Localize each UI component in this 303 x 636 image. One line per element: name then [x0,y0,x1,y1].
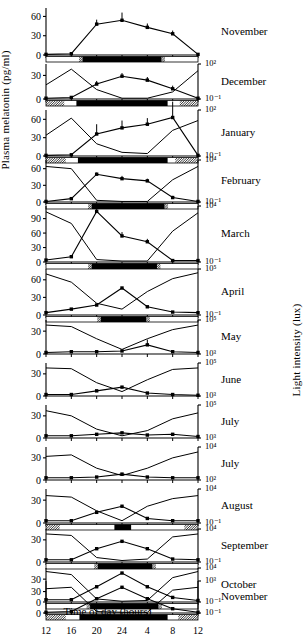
data-point-marker [171,519,174,522]
month-label-april-5: April [221,285,244,297]
data-point-marker [196,311,199,314]
data-point-marker [44,351,47,354]
data-point-marker [146,433,149,436]
data-point-marker [146,547,149,550]
data-point-marker [70,519,73,522]
right-tick-label: 10⁻¹ [205,93,221,103]
data-point-marker [196,558,199,561]
data-point-marker [70,558,73,561]
x-tick-label: 4 [138,625,156,636]
dark-period-bar [78,158,168,164]
light-intensity-curve [46,534,198,561]
data-point-marker [146,123,149,126]
right-tick-label: 10⁴ [205,154,216,164]
right-tick-label: 10⁵ [205,399,216,409]
y-tick-label: 30 [31,410,41,421]
data-point-marker [120,177,123,180]
melatonin-curve [46,541,198,559]
data-point-marker [146,585,149,588]
month-label-may-6: May [221,330,241,342]
y-tick-label: 0 [36,391,41,402]
data-point-marker [44,97,47,100]
melatonin-curve [46,76,198,98]
right-tick-label: 10⁴ [205,562,216,572]
month-label-november-13: November [221,590,267,602]
y-tick-label: 60 [31,274,41,285]
data-point-marker [196,394,199,397]
data-point-marker [146,475,149,478]
data-point-marker [95,389,98,392]
data-point-marker [70,476,73,479]
dark-period-bar [98,564,153,570]
light-intensity-curve [46,325,198,349]
data-point-marker [44,311,47,314]
right-tick-label: 10⁻¹ [205,596,221,606]
month-label-february-3: February [221,174,261,186]
data-point-marker [44,154,47,157]
right-tick-label: 10⁴ [205,483,216,493]
melatonin-curve [46,20,198,54]
panel-3-february: 03060 [31,160,201,209]
data-point-marker [171,393,174,396]
data-point-marker [120,472,123,475]
y-tick-label: 0 [36,50,41,61]
data-point-marker [70,393,73,396]
data-point-marker [44,200,47,203]
data-point-marker [70,197,73,200]
panel-9-july: 030 [31,447,201,486]
y-tick-label: 0 [36,257,41,268]
data-point-marker [196,200,199,203]
data-point-marker [120,385,123,388]
y-tick-label: 30 [31,292,41,303]
data-point-marker [95,82,98,85]
data-point-marker [171,259,174,262]
y-tick-label: 30 [31,30,41,41]
panel-10-august: 030 [31,489,208,530]
data-point-marker [120,505,123,508]
data-point-marker [95,303,98,306]
right-tick-label: 10² [205,58,216,68]
right-tick-label: 10⁴ [205,200,216,210]
data-point-marker [120,431,123,434]
data-point-marker [44,434,47,437]
data-point-marker [120,540,123,543]
month-label-july-8: July [221,415,239,427]
y-tick-label: 60 [31,11,41,22]
panel-4-march: 0306090 [31,206,201,269]
right-tick-label: 10⁵ [205,314,216,324]
data-point-marker [95,173,98,176]
month-label-october-12: October [221,578,256,590]
data-point-marker [70,350,73,353]
data-point-marker [70,255,73,258]
y-tick-label: 90 [31,213,41,224]
light-intensity-curve [46,273,198,309]
y-tick-label: 30 [31,180,41,191]
right-tick-label: 10³ [205,575,216,585]
data-point-marker [196,519,199,522]
y-tick-label: 0 [36,94,41,105]
data-point-marker [70,307,73,310]
data-point-marker [196,53,199,56]
month-label-august-10: August [221,499,253,511]
light-intensity-curve [46,496,198,521]
month-label-july-9: July [221,457,239,469]
data-point-marker [196,435,199,438]
data-point-marker [70,96,73,99]
data-point-marker [171,476,174,479]
data-point-marker [146,240,149,243]
x-tick-label: 12 [37,625,55,636]
data-point-marker [120,75,123,78]
y-tick-label: 30 [31,452,41,463]
y-tick-label: 30 [31,534,41,545]
light-intensity-curve [46,452,198,476]
y-tick-label: 60 [31,114,41,125]
data-point-marker [70,434,73,437]
right-tick-label: 10² [205,104,216,114]
data-point-marker [171,196,174,199]
data-point-marker [95,511,98,514]
data-point-marker [196,154,199,157]
data-point-marker [120,286,123,289]
data-point-marker [120,586,123,589]
